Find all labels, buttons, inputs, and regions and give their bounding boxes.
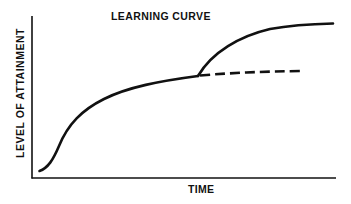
plot-area <box>0 0 351 204</box>
improved-branch-curve <box>198 24 333 77</box>
learning-curve-diagram: LEARNING CURVE LEVEL OF ATTAINMENT TIME <box>0 0 351 204</box>
base-learning-curve <box>40 76 199 171</box>
plateau-branch-dashed-curve <box>200 71 301 76</box>
